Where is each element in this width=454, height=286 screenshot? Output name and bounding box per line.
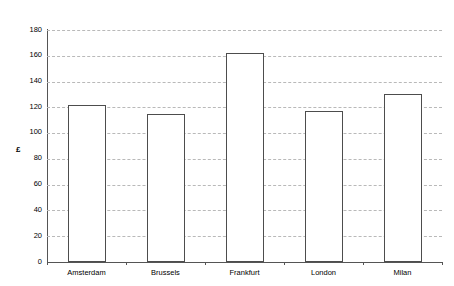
x-tick-2	[205, 262, 206, 265]
y-tick-label-100: 100	[16, 128, 42, 136]
x-label-amsterdam: Amsterdam	[47, 268, 126, 277]
x-tick-4	[363, 262, 364, 265]
bar-chart: 180 160 140 120 100 80 60 40 20 0 £	[0, 0, 454, 286]
bar-brussels	[147, 114, 185, 262]
x-label-milan: Milan	[363, 268, 442, 277]
y-tick-label-20: 20	[16, 232, 42, 240]
y-tick-label-180: 180	[16, 26, 42, 34]
x-axis-line	[47, 262, 443, 263]
x-tick-0	[47, 262, 48, 265]
y-tick-label-0: 0	[16, 258, 42, 266]
bar-amsterdam	[68, 105, 106, 262]
gridline-180	[47, 30, 442, 31]
x-tick-5	[442, 262, 443, 265]
bar-milan	[384, 94, 422, 262]
y-tick-label-120: 120	[16, 103, 42, 111]
x-tick-3	[284, 262, 285, 265]
y-tick-label-40: 40	[16, 206, 42, 214]
bar-frankfurt	[226, 53, 264, 262]
y-axis-title: £	[16, 145, 20, 154]
y-tick-label-140: 140	[16, 77, 42, 85]
x-label-brussels: Brussels	[126, 268, 205, 277]
plot-area	[47, 30, 442, 262]
y-tick-label-160: 160	[16, 51, 42, 59]
y-tick-label-80: 80	[16, 154, 42, 162]
x-tick-1	[126, 262, 127, 265]
bar-london	[305, 111, 343, 262]
x-label-frankfurt: Frankfurt	[205, 268, 284, 277]
x-label-london: London	[284, 268, 363, 277]
y-tick-label-60: 60	[16, 180, 42, 188]
